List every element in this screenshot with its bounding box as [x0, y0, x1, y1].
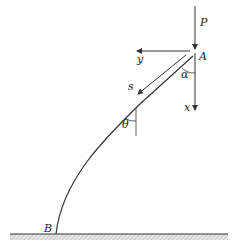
- arc-length-arrow: [138, 55, 186, 94]
- point-b-label: B: [43, 222, 52, 235]
- ground-hatch: [10, 234, 228, 240]
- elastica-diagram: P A y x s α θ B: [0, 0, 238, 250]
- x-axis-label: x: [184, 101, 191, 114]
- angle-alpha-label: α: [181, 68, 189, 81]
- arc-length-label: s: [128, 80, 134, 93]
- point-a-label: A: [198, 50, 207, 63]
- angle-theta-label: θ: [122, 118, 129, 131]
- ground: [10, 234, 228, 240]
- column-curve: [56, 56, 193, 234]
- y-axis-label: y: [136, 53, 144, 66]
- load-label: P: [199, 16, 208, 29]
